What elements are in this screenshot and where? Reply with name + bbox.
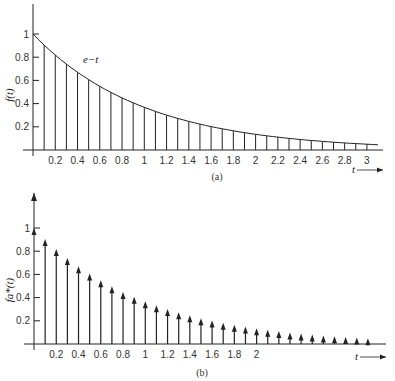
impulse-arrow-icon (310, 334, 315, 341)
impulse-arrow-icon (198, 318, 203, 325)
impulse-arrow-icon (176, 312, 181, 319)
x-tick-label: 0.4 (71, 155, 85, 166)
y-tick-label: 0.6 (16, 269, 30, 280)
x-tick-label: 1 (142, 155, 148, 166)
arrow-right-icon (377, 168, 383, 173)
x-tick-label: 2 (253, 155, 259, 166)
impulse-arrow-icon (43, 239, 48, 246)
x-tick-label: 2.6 (315, 155, 329, 166)
impulse-arrow-icon (132, 297, 137, 304)
impulse-arrow-icon (165, 309, 170, 316)
impulse-arrow-icon (365, 338, 370, 345)
x-tick-label: 1.4 (182, 155, 196, 166)
impulse-arrow-icon (321, 335, 326, 342)
x-tick-label: 0.2 (49, 349, 63, 360)
x-tick-label: 0.8 (115, 155, 129, 166)
impulse-arrow-icon (221, 323, 226, 330)
x-tick-label: 3 (364, 155, 370, 166)
x-tick-label: 1.2 (160, 155, 174, 166)
impulse-arrow-icon (65, 258, 70, 265)
impulse-arrow-icon (343, 337, 348, 344)
impulse-arrow-icon (76, 266, 81, 273)
impulse-arrow-icon (154, 305, 159, 312)
impulse-arrow-icon (299, 333, 304, 340)
impulse-arrow-icon (54, 249, 59, 256)
y-tick-label: 0.2 (16, 315, 30, 326)
y-axis-label: f(t) (3, 88, 16, 102)
y-tick-label: 0.2 (15, 121, 29, 132)
impulse-arrow-icon (187, 315, 192, 322)
impulse-arrow-icon (254, 328, 259, 335)
x-tick-label: 0.8 (116, 349, 130, 360)
x-tick-label: 0.2 (48, 155, 62, 166)
impulse-arrow-icon (332, 336, 337, 343)
impulse-arrow-icon (98, 280, 103, 287)
x-tick-label: 0.6 (93, 155, 107, 166)
impulse-arrow-icon (87, 274, 92, 281)
x-tick-label: 0.6 (94, 349, 108, 360)
x-tick-label: 2 (254, 349, 260, 360)
x-axis-label: t (355, 350, 359, 362)
impulse-arrow-icon (109, 286, 114, 293)
x-tick-label: 1.8 (227, 349, 241, 360)
impulse-arrow-icon (210, 321, 215, 328)
x-tick-label: 2.4 (293, 155, 307, 166)
x-tick-label: 2.8 (338, 155, 352, 166)
x-tick-label: 0.4 (72, 349, 86, 360)
x-tick-label: 2.2 (271, 155, 285, 166)
x-axis-label: t (352, 163, 356, 175)
impulse-arrow-icon (287, 332, 292, 339)
impulse-arrow-icon (121, 292, 126, 299)
y-tick-label: 1 (24, 223, 30, 234)
impulse-arrow-icon (232, 325, 237, 332)
figure-caption: (a) (211, 171, 222, 183)
plot-b: 0.20.40.60.810.20.40.60.811.21.41.61.82t… (3, 193, 386, 379)
plot-a: 0.20.40.60.810.20.40.60.811.21.41.61.822… (3, 4, 383, 183)
y-axis-arrow-icon (31, 193, 37, 201)
x-tick-label: 1 (143, 349, 149, 360)
y-axis-label: fa*(t) (3, 277, 16, 302)
x-tick-label: 1.6 (204, 155, 218, 166)
arrow-right-icon (380, 355, 386, 360)
figure-caption: (b) (196, 367, 208, 379)
impulse-arrow-icon (265, 330, 270, 337)
y-tick-label: 0.8 (16, 246, 30, 257)
impulse-arrow-icon (32, 228, 37, 235)
impulse-arrow-icon (354, 338, 359, 345)
exp-curve (33, 34, 378, 145)
x-tick-label: 1.8 (226, 155, 240, 166)
y-tick-label: 0.8 (15, 52, 29, 63)
y-tick-label: 0.4 (15, 98, 29, 109)
impulse-arrow-icon (243, 327, 248, 334)
figure: 0.20.40.60.810.20.40.60.811.21.41.61.822… (0, 0, 395, 381)
impulse-arrow-icon (276, 331, 281, 338)
y-tick-label: 0.6 (15, 75, 29, 86)
x-tick-label: 1.2 (161, 349, 175, 360)
x-tick-label: 1.6 (205, 349, 219, 360)
y-tick-label: 0.4 (16, 292, 30, 303)
curve-label: e−t (83, 53, 99, 65)
impulse-arrow-icon (143, 301, 148, 308)
x-tick-label: 1.4 (183, 349, 197, 360)
y-tick-label: 1 (23, 29, 29, 40)
